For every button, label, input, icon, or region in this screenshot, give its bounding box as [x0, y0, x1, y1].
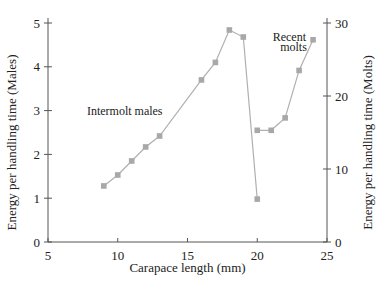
data-point-marker — [115, 172, 121, 178]
chart: 5101520250123450102030 Carapace length (… — [0, 0, 384, 287]
data-point-marker — [129, 158, 135, 164]
data-point-marker — [241, 34, 247, 40]
data-point-marker — [157, 133, 163, 139]
x-tick-label: 10 — [111, 248, 124, 263]
data-point-marker — [296, 68, 302, 74]
annotation: Intermolt males — [87, 104, 163, 118]
data-point-marker — [101, 183, 107, 189]
labels: Carapace length (mm)Energy per handling … — [4, 30, 375, 275]
data-point-marker — [199, 77, 205, 83]
data-point-marker — [213, 60, 219, 66]
data-point-marker — [227, 27, 233, 33]
y-right-tick-label: 0 — [335, 235, 342, 250]
y-right-tick-label: 10 — [335, 162, 348, 177]
data-point-marker — [254, 128, 260, 134]
data-point-marker — [143, 144, 149, 150]
y-left-tick-label: 3 — [34, 103, 41, 118]
data-point-marker — [268, 128, 274, 134]
y-right-tick-label: 30 — [335, 16, 348, 31]
y-left-tick-label: 0 — [34, 235, 41, 250]
x-tick-label: 20 — [251, 248, 264, 263]
y-left-tick-label: 5 — [34, 16, 41, 31]
y-left-tick-label: 1 — [34, 191, 41, 206]
x-tick-label: 5 — [45, 248, 52, 263]
y-left-tick-label: 2 — [34, 147, 41, 162]
x-tick-label: 25 — [321, 248, 334, 263]
y-left-axis-label: Energy per handling time (Males) — [4, 55, 19, 231]
x-axis-label: Carapace length (mm) — [129, 260, 245, 275]
y-left-tick-label: 4 — [34, 59, 41, 74]
annotation: molts — [280, 40, 307, 54]
data-point-marker — [282, 115, 288, 121]
y-right-tick-label: 20 — [335, 89, 348, 104]
data-point-marker — [310, 37, 316, 43]
y-right-axis-label: Energy per handling time (Molts) — [360, 55, 375, 230]
data-point-marker — [254, 196, 260, 202]
